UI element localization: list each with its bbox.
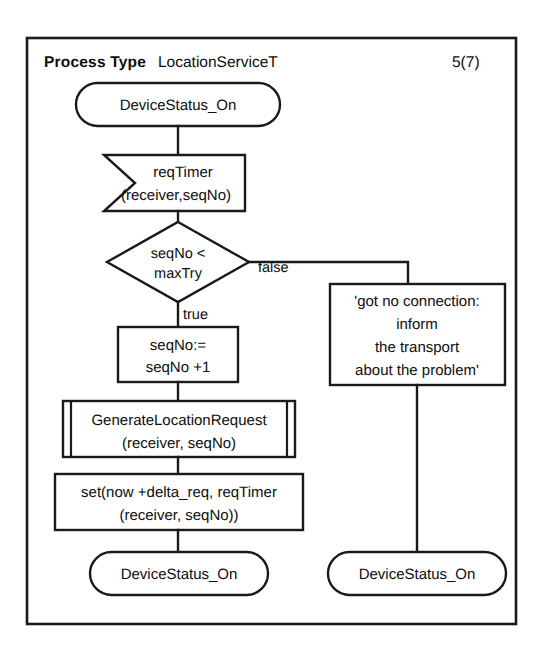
input-label-line1: reqTimer bbox=[153, 164, 212, 181]
task-no-connection-line1: 'got no connection: bbox=[354, 293, 479, 310]
state-end-left-label: DeviceStatus_On bbox=[121, 566, 238, 583]
state-start-label: DeviceStatus_On bbox=[120, 97, 237, 114]
state-end-right-label: DeviceStatus_On bbox=[359, 566, 476, 583]
input-label-line2: (receiver,seqNo) bbox=[121, 187, 231, 204]
decision-label-line2: maxTry bbox=[154, 266, 203, 282]
header-type-name: LocationServiceT bbox=[158, 54, 278, 71]
sdl-process-diagram: Process Type LocationServiceT 5(7) Devic… bbox=[0, 0, 538, 658]
decision-label-line1: seqNo < bbox=[151, 246, 205, 262]
task-no-connection-line4: about the problem' bbox=[355, 362, 479, 379]
page-indicator: 5(7) bbox=[452, 54, 480, 71]
task-increment-line1: seqNo:= bbox=[150, 337, 207, 354]
procedure-call-line1: GenerateLocationRequest bbox=[91, 412, 267, 429]
task-increment-line2: seqNo +1 bbox=[146, 359, 211, 376]
diagram-canvas: Process Type LocationServiceT 5(7) Devic… bbox=[0, 0, 538, 658]
branch-label-false: false bbox=[258, 260, 289, 276]
header-type-label: Process Type bbox=[44, 54, 146, 71]
procedure-call-line2: (receiver, seqNo) bbox=[122, 435, 236, 452]
task-set-timer-line2: (receiver, seqNo)) bbox=[119, 507, 238, 524]
task-no-connection-line3: the transport bbox=[375, 339, 460, 356]
task-no-connection-line2: inform bbox=[396, 316, 438, 333]
task-set-timer-line1: set(now +delta_req, reqTimer bbox=[81, 484, 277, 501]
branch-label-true: true bbox=[183, 307, 208, 323]
